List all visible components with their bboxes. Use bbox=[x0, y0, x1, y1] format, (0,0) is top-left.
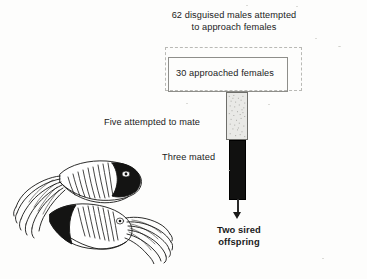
speckle-texture bbox=[227, 93, 247, 139]
two-sired-line1: Two sired bbox=[217, 224, 261, 235]
funnel-arrow-head-icon bbox=[233, 212, 241, 219]
label-five-attempted-to-mate: Five attempted to mate bbox=[104, 117, 200, 129]
label-approached-females: 30 approached females bbox=[176, 68, 274, 80]
two-sired-line2: offspring bbox=[218, 236, 259, 247]
scan-fleck bbox=[186, 103, 188, 104]
scan-fleck bbox=[268, 104, 270, 105]
scan-fleck bbox=[322, 258, 324, 259]
label-two-sired-offspring: Two siredoffspring bbox=[196, 224, 282, 247]
scan-fleck bbox=[338, 46, 341, 47]
funnel-segment-gray bbox=[226, 92, 248, 140]
funnel-segment-black bbox=[229, 140, 246, 200]
figure-canvas: 62 disguised males attempted to approach… bbox=[0, 0, 367, 279]
scan-fleck bbox=[315, 38, 317, 39]
scan-fleck bbox=[296, 6, 298, 7]
two-cuttlefish-drawing bbox=[8, 152, 173, 264]
top-caption: 62 disguised males attempted to approach… bbox=[163, 10, 305, 33]
scan-fleck bbox=[246, 5, 248, 6]
scan-fleck bbox=[228, 170, 230, 171]
